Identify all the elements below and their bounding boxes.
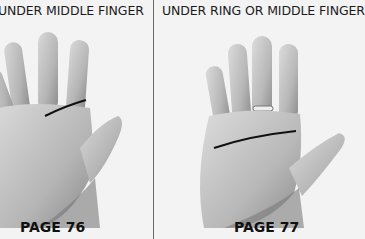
caption: UNDER RING OR MIDDLE FINGER	[162, 3, 365, 18]
panel-under-ring-or-middle-finger: UNDER RING OR MIDDLE FINGER PAGE 77	[154, 0, 360, 239]
caption: UNDER MIDDLE FINGER	[0, 3, 144, 18]
ring	[253, 106, 273, 111]
panel-under-middle-finger: UNDER MIDDLE FINGER PAGE 76	[0, 0, 153, 239]
hand-palm-image	[154, 28, 360, 228]
hand-palm-image	[0, 28, 153, 228]
page-reference: PAGE 76	[20, 219, 85, 235]
page-reference: PAGE 77	[234, 219, 299, 235]
